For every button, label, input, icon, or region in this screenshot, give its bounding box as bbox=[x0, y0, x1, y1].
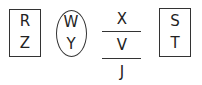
left-box-top-letter: R bbox=[15, 14, 35, 29]
right-box-bottom-letter: T bbox=[165, 36, 185, 51]
right-box-top-letter: S bbox=[165, 14, 185, 29]
fraction-middle-letter: V bbox=[112, 38, 132, 53]
fraction-line-lower bbox=[102, 58, 141, 59]
left-box-bottom-letter: Z bbox=[15, 36, 35, 51]
ellipse-top-letter: W bbox=[61, 15, 81, 30]
fraction-top-letter: X bbox=[112, 12, 132, 27]
fraction-line-upper bbox=[102, 31, 141, 32]
ellipse-bottom-letter: Y bbox=[61, 37, 81, 52]
fraction-bottom-letter: J bbox=[112, 65, 132, 80]
